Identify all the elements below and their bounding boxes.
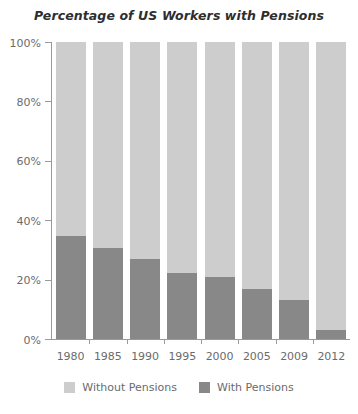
y-axis-tick-label: 80% — [17, 95, 41, 108]
bar-segment-with-pensions[interactable] — [279, 300, 309, 339]
legend-label: Without Pensions — [82, 381, 177, 394]
y-axis-tick — [45, 101, 51, 102]
x-axis-tick — [276, 339, 277, 344]
y-axis-tick — [45, 220, 51, 221]
y-axis-tick-group: 40% — [52, 220, 53, 221]
x-axis-tick — [89, 339, 90, 344]
y-axis-tick-label: 60% — [17, 155, 41, 168]
bar-segment-with-pensions[interactable] — [316, 330, 346, 339]
y-axis-tick — [45, 42, 51, 43]
bar-segment-without-pensions[interactable] — [167, 42, 197, 273]
legend-item[interactable]: With Pensions — [199, 381, 294, 394]
bar-stack[interactable] — [93, 42, 123, 339]
bar-stack[interactable] — [205, 42, 235, 339]
bar-stack[interactable] — [316, 42, 346, 339]
bar-segment-with-pensions[interactable] — [167, 273, 197, 339]
bar-segment-with-pensions[interactable] — [56, 236, 86, 339]
x-axis-tick — [201, 339, 202, 344]
legend-swatch-icon — [199, 382, 210, 393]
x-axis-tick-label: 2000 — [206, 350, 234, 363]
x-axis-tick-label: 1985 — [94, 350, 122, 363]
bar-segment-without-pensions[interactable] — [242, 42, 272, 289]
y-axis-tick-label: 0% — [24, 333, 41, 346]
x-axis-tick-label: 1980 — [57, 350, 85, 363]
bar-stack[interactable] — [56, 42, 86, 339]
bar-segment-with-pensions[interactable] — [130, 259, 160, 339]
bar-segment-without-pensions[interactable] — [279, 42, 309, 300]
bar-segment-with-pensions[interactable] — [93, 248, 123, 339]
legend-item[interactable]: Without Pensions — [64, 381, 177, 394]
y-axis-tick-group: 20% — [52, 280, 53, 281]
y-axis-tick-group: 60% — [52, 161, 53, 162]
y-axis-tick-group: 0% — [52, 339, 53, 340]
chart-title: Percentage of US Workers with Pensions — [0, 8, 358, 23]
legend-swatch-icon — [64, 382, 75, 393]
x-axis-tick-label: 2012 — [317, 350, 345, 363]
bar-segment-without-pensions[interactable] — [205, 42, 235, 277]
bar-segment-with-pensions[interactable] — [242, 289, 272, 339]
x-axis-tick — [238, 339, 239, 344]
bar-stack[interactable] — [130, 42, 160, 339]
chart-legend: Without PensionsWith Pensions — [0, 381, 358, 394]
bar-stack[interactable] — [279, 42, 309, 339]
plot-area: 0%20%40%60%80%100% 198019851990199520002… — [52, 42, 350, 339]
bar-segment-without-pensions[interactable] — [130, 42, 160, 259]
y-axis-line — [51, 42, 52, 340]
bar-segment-without-pensions[interactable] — [316, 42, 346, 330]
bar-segment-without-pensions[interactable] — [56, 42, 86, 236]
x-axis-tick-label: 2005 — [243, 350, 271, 363]
x-axis-tick-label: 1995 — [168, 350, 196, 363]
bar-stack[interactable] — [242, 42, 272, 339]
x-axis-tick-label: 2009 — [280, 350, 308, 363]
y-axis-tick-group: 100% — [52, 42, 53, 43]
chart-figure: Percentage of US Workers with Pensions 0… — [0, 0, 358, 414]
y-axis-tick-group: 80% — [52, 101, 53, 102]
y-axis-tick-label: 100% — [10, 36, 41, 49]
y-axis-tick — [45, 339, 51, 340]
y-axis-tick-label: 20% — [17, 274, 41, 287]
bar-stack[interactable] — [167, 42, 197, 339]
legend-label: With Pensions — [217, 381, 294, 394]
x-axis-tick — [127, 339, 128, 344]
x-axis-tick — [164, 339, 165, 344]
x-axis-tick-label: 1990 — [131, 350, 159, 363]
y-axis-tick-label: 40% — [17, 214, 41, 227]
x-axis-tick — [313, 339, 314, 344]
y-axis-tick — [45, 280, 51, 281]
bar-segment-without-pensions[interactable] — [93, 42, 123, 248]
bar-segment-with-pensions[interactable] — [205, 277, 235, 339]
y-axis-tick — [45, 161, 51, 162]
